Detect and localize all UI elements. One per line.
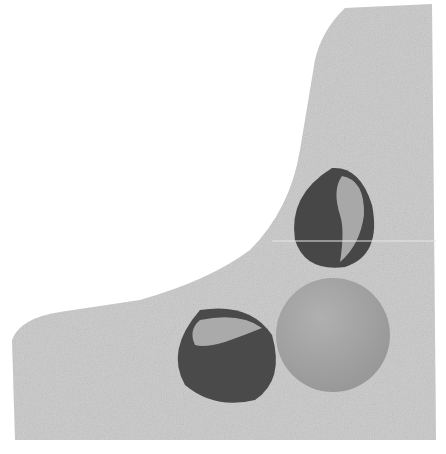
- photo-scene: [0, 0, 446, 454]
- scene-svg: [0, 0, 446, 454]
- sphere: [276, 278, 390, 392]
